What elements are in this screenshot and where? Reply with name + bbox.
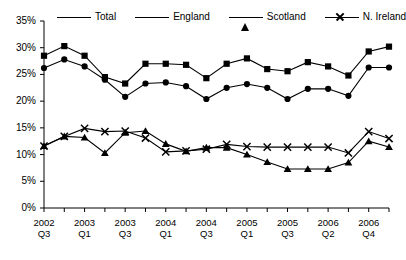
data-point-marker xyxy=(345,93,351,99)
data-point-marker xyxy=(345,149,352,156)
data-point-marker xyxy=(264,85,270,91)
data-point-marker xyxy=(345,72,351,78)
data-point-marker xyxy=(263,158,271,165)
data-point-marker xyxy=(102,74,108,80)
series-total xyxy=(41,56,392,102)
data-point-marker xyxy=(325,86,331,92)
axes xyxy=(40,21,389,212)
data-point-marker xyxy=(386,44,392,50)
data-point-marker xyxy=(122,80,128,86)
data-point-marker xyxy=(366,48,372,54)
data-point-marker xyxy=(163,61,169,67)
data-point-marker xyxy=(142,80,148,86)
data-point-marker xyxy=(81,53,87,59)
data-point-marker xyxy=(183,62,189,68)
data-point-marker xyxy=(203,75,209,81)
data-point-marker xyxy=(203,96,209,102)
data-point-marker xyxy=(224,85,230,91)
data-point-marker xyxy=(142,61,148,67)
data-point-marker xyxy=(122,94,128,100)
data-point-marker xyxy=(183,83,189,89)
data-point-marker xyxy=(305,59,311,65)
data-point-marker xyxy=(325,63,331,69)
data-point-marker xyxy=(41,65,47,71)
data-point-marker xyxy=(41,53,47,59)
data-point-marker xyxy=(244,81,250,87)
data-point-marker xyxy=(305,86,311,92)
data-point-marker xyxy=(81,63,87,69)
data-point-marker xyxy=(244,55,250,61)
data-point-marker xyxy=(142,134,149,141)
series-n-ireland xyxy=(40,125,392,157)
data-point-marker xyxy=(386,64,392,70)
data-point-marker xyxy=(224,61,230,67)
series-scotland xyxy=(40,127,393,172)
data-point-marker xyxy=(284,68,290,74)
data-point-marker xyxy=(162,140,170,147)
data-point-marker xyxy=(264,66,270,72)
data-point-marker xyxy=(365,137,373,144)
series-england xyxy=(41,43,392,87)
data-point-marker xyxy=(61,56,67,62)
data-point-marker xyxy=(142,127,150,134)
data-point-marker xyxy=(163,79,169,85)
series-group xyxy=(40,43,393,172)
data-point-marker xyxy=(61,43,67,49)
data-point-marker xyxy=(385,135,392,142)
data-point-marker xyxy=(365,128,372,135)
data-point-marker xyxy=(284,96,290,102)
data-point-marker xyxy=(366,64,372,70)
